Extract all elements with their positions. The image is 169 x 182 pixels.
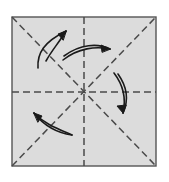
origami-diagram [0,0,169,182]
origami-canvas [0,0,169,182]
